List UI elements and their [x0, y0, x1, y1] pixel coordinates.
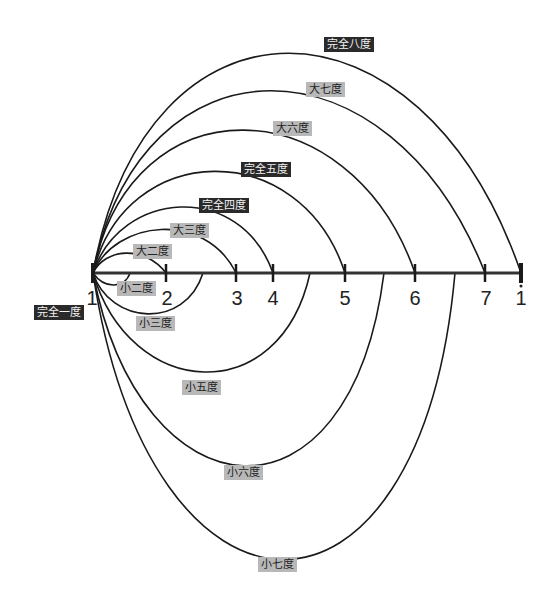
- note-label: 7: [480, 287, 491, 309]
- label-major-second: 大二度: [133, 244, 172, 259]
- label-perfect-fifth: 完全五度: [241, 162, 291, 177]
- label-minor-third: 小三度: [136, 316, 175, 331]
- note-label: 4: [267, 287, 278, 309]
- note-label: 1: [86, 287, 97, 309]
- label-minor-seventh: 小七度: [258, 557, 297, 572]
- note-label: 5: [339, 287, 350, 309]
- label-minor-sixth: 小六度: [224, 465, 263, 480]
- label-major-third: 大三度: [170, 223, 209, 238]
- octave-dot-icon: [520, 285, 523, 288]
- label-perfect-unison: 完全一度: [34, 305, 84, 320]
- label-perfect-octave: 完全八度: [324, 37, 374, 52]
- note-label: 3: [231, 287, 242, 309]
- label-major-seventh: 大七度: [306, 82, 345, 97]
- label-perfect-fourth: 完全四度: [199, 198, 249, 213]
- note-label: 6: [409, 287, 420, 309]
- label-minor-second: 小二度: [117, 281, 156, 296]
- label-minor-fifth: 小五度: [182, 380, 221, 395]
- note-label-high-octave: 1: [515, 287, 526, 309]
- note-label: 2: [161, 287, 172, 309]
- interval-diagram: 1 2 3 4 5 6 7 1: [0, 0, 560, 609]
- label-major-sixth: 大六度: [273, 121, 312, 136]
